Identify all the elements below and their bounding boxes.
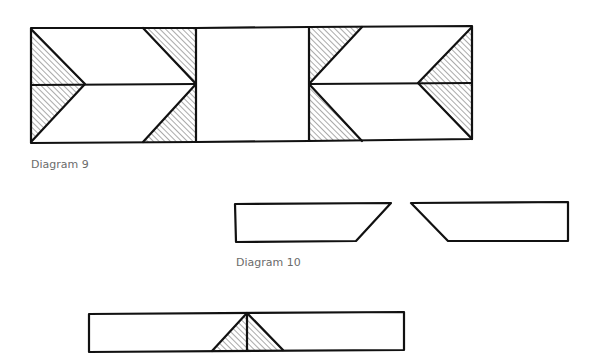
divider: [31, 84, 196, 85]
diagram-9-caption: Diagram 9: [31, 158, 89, 171]
diagram-9-figure: [31, 26, 472, 143]
diagram-10-caption: Diagram 10: [236, 256, 301, 269]
diagrams-canvas: [0, 0, 591, 362]
divider: [309, 83, 472, 84]
left-trapezoid-strip: [235, 203, 391, 242]
diagram-10-figure: [235, 202, 568, 242]
right-trapezoid-strip: [411, 202, 568, 241]
diagram-11-figure: [89, 312, 404, 352]
